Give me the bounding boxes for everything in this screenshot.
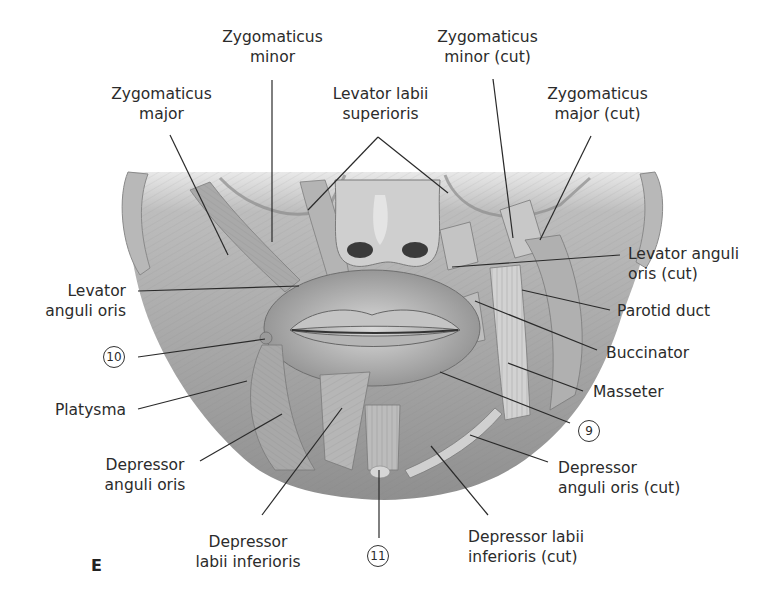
label-masseter: Masseter xyxy=(593,382,664,402)
panel-letter: E xyxy=(91,556,102,575)
label-zygomaticus-major: Zygomaticus major xyxy=(104,84,219,124)
nose xyxy=(335,180,440,266)
label-depressor-anguli-oris-cut: Depressor anguli oris (cut) xyxy=(558,458,680,498)
label-zygomaticus-major-cut: Zygomaticus major (cut) xyxy=(540,84,655,124)
anatomy-figure: Zygomaticus minor Zygomaticus major Leva… xyxy=(0,0,777,607)
label-platysma: Platysma xyxy=(10,400,126,420)
label-levator-labii-superioris: Levator labii superioris xyxy=(318,84,443,124)
label-depressor-anguli-oris: Depressor anguli oris xyxy=(90,455,200,495)
marker-9: 9 xyxy=(578,420,600,442)
label-depressor-labii-inferioris-cut: Depressor labii inferioris (cut) xyxy=(468,527,584,567)
label-buccinator: Buccinator xyxy=(606,343,689,363)
label-levator-anguli-oris-cut: Levator anguli oris (cut) xyxy=(628,244,739,284)
marker-11: 11 xyxy=(367,545,389,567)
label-levator-anguli-oris: Levator anguli oris xyxy=(10,281,126,321)
label-zygomaticus-minor-cut: Zygomaticus minor (cut) xyxy=(430,27,545,67)
marker-10: 10 xyxy=(103,346,125,368)
label-depressor-labii-inferioris: Depressor labii inferioris xyxy=(183,532,313,572)
label-zygomaticus-minor: Zygomaticus minor xyxy=(215,27,330,67)
label-parotid-duct: Parotid duct xyxy=(617,301,710,321)
